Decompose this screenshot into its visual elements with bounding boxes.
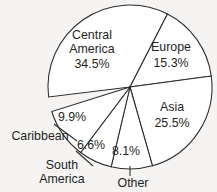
- slice-name-caribbean: Caribbean: [11, 129, 68, 143]
- pie-chart-canvas: CentralAmerica34.5%Europe15.3%Asia25.5%O…: [0, 0, 217, 192]
- slice-name-central-america: Central: [72, 28, 112, 42]
- slice-value-europe: 15.3%: [153, 56, 188, 70]
- slice-value-central-america: 34.5%: [74, 57, 109, 71]
- slice-name-other: Other: [118, 176, 149, 190]
- slice-value-caribbean: 9.9%: [58, 110, 86, 124]
- slice-name-south-america: South: [46, 158, 78, 172]
- slice-name-central-america-line2: America: [69, 42, 115, 56]
- slice-value-other: 8.1%: [112, 144, 140, 158]
- slice-value-asia: 25.5%: [154, 116, 189, 130]
- slice-name-europe: Europe: [151, 40, 191, 54]
- pie-chart: CentralAmerica34.5%Europe15.3%Asia25.5%O…: [0, 0, 217, 192]
- slice-name-south-america-line2: America: [39, 172, 85, 186]
- slice-name-asia: Asia: [160, 100, 184, 114]
- slice-value-south-america: 6.6%: [77, 138, 105, 152]
